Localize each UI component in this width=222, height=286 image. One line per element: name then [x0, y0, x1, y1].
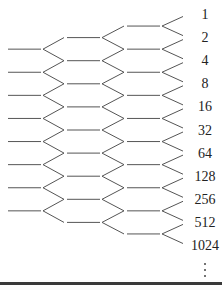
- fork-lower-arm: [162, 118, 183, 128]
- fork-lower-arm: [43, 118, 64, 130]
- fork-lower-arm: [43, 188, 64, 200]
- fork-upper-arm: [162, 201, 183, 211]
- fork-upper-arm: [162, 40, 183, 50]
- fork-lower-arm: [102, 153, 124, 165]
- fork-lower-arm: [162, 26, 183, 36]
- fork-upper-arm: [162, 17, 183, 27]
- fork-upper-arm: [162, 155, 183, 165]
- label-32: 32: [190, 123, 220, 139]
- fork-lower-arm: [102, 38, 124, 50]
- label-4: 4: [190, 53, 220, 69]
- fork-upper-arm: [162, 224, 183, 234]
- fork-upper-arm: [162, 178, 183, 188]
- fork-lower-arm: [43, 72, 64, 84]
- fork-upper-arm: [43, 84, 64, 96]
- fork-lower-arm: [162, 95, 183, 105]
- fork-upper-arm: [43, 153, 64, 165]
- fork-lower-arm: [43, 142, 64, 154]
- fork-lower-arm: [102, 130, 124, 142]
- fork-lower-arm: [102, 199, 124, 211]
- fork-upper-arm: [102, 118, 124, 130]
- fork-upper-arm: [43, 38, 64, 50]
- fork-lower-arm: [43, 49, 64, 61]
- dot: [204, 269, 206, 271]
- fork-upper-arm: [162, 63, 183, 73]
- fork-upper-arm: [43, 199, 64, 211]
- continuation-dots: [203, 263, 207, 281]
- fork-lower-arm: [162, 49, 183, 59]
- fork-lower-arm: [102, 222, 124, 234]
- fork-lower-arm: [162, 72, 183, 82]
- fork-lower-arm: [162, 142, 183, 152]
- label-512: 512: [190, 215, 220, 231]
- fork-lower-arm: [162, 188, 183, 198]
- dot: [204, 275, 206, 277]
- fork-lower-arm: [162, 234, 183, 244]
- fork-upper-arm: [102, 188, 124, 200]
- dot: [204, 263, 206, 265]
- fork-lower-arm: [43, 95, 64, 107]
- tree-lines: [0, 0, 222, 286]
- fork-upper-arm: [162, 132, 183, 142]
- doubling-tree-figure: 12481632641282565121024: [0, 0, 222, 286]
- fork-upper-arm: [102, 49, 124, 61]
- label-128: 128: [190, 169, 220, 185]
- label-256: 256: [190, 192, 220, 208]
- fork-upper-arm: [43, 107, 64, 119]
- fork-upper-arm: [102, 26, 124, 38]
- fork-upper-arm: [162, 109, 183, 119]
- fork-lower-arm: [43, 211, 64, 223]
- label-8: 8: [190, 76, 220, 92]
- fork-upper-arm: [102, 142, 124, 154]
- fork-upper-arm: [102, 211, 124, 223]
- label-1: 1: [190, 7, 220, 23]
- fork-lower-arm: [102, 84, 124, 96]
- fork-lower-arm: [102, 176, 124, 188]
- fork-upper-arm: [102, 72, 124, 84]
- label-1024: 1024: [190, 238, 220, 254]
- label-2: 2: [190, 30, 220, 46]
- label-64: 64: [190, 146, 220, 162]
- fork-upper-arm: [43, 61, 64, 73]
- fork-upper-arm: [162, 86, 183, 96]
- fork-upper-arm: [102, 165, 124, 177]
- fork-lower-arm: [162, 165, 183, 175]
- fork-upper-arm: [43, 130, 64, 142]
- fork-lower-arm: [102, 61, 124, 73]
- fork-lower-arm: [102, 107, 124, 119]
- fork-lower-arm: [43, 165, 64, 177]
- bottom-rule: [0, 282, 222, 285]
- label-16: 16: [190, 99, 220, 115]
- fork-upper-arm: [43, 176, 64, 188]
- fork-upper-arm: [102, 95, 124, 107]
- fork-lower-arm: [162, 211, 183, 221]
